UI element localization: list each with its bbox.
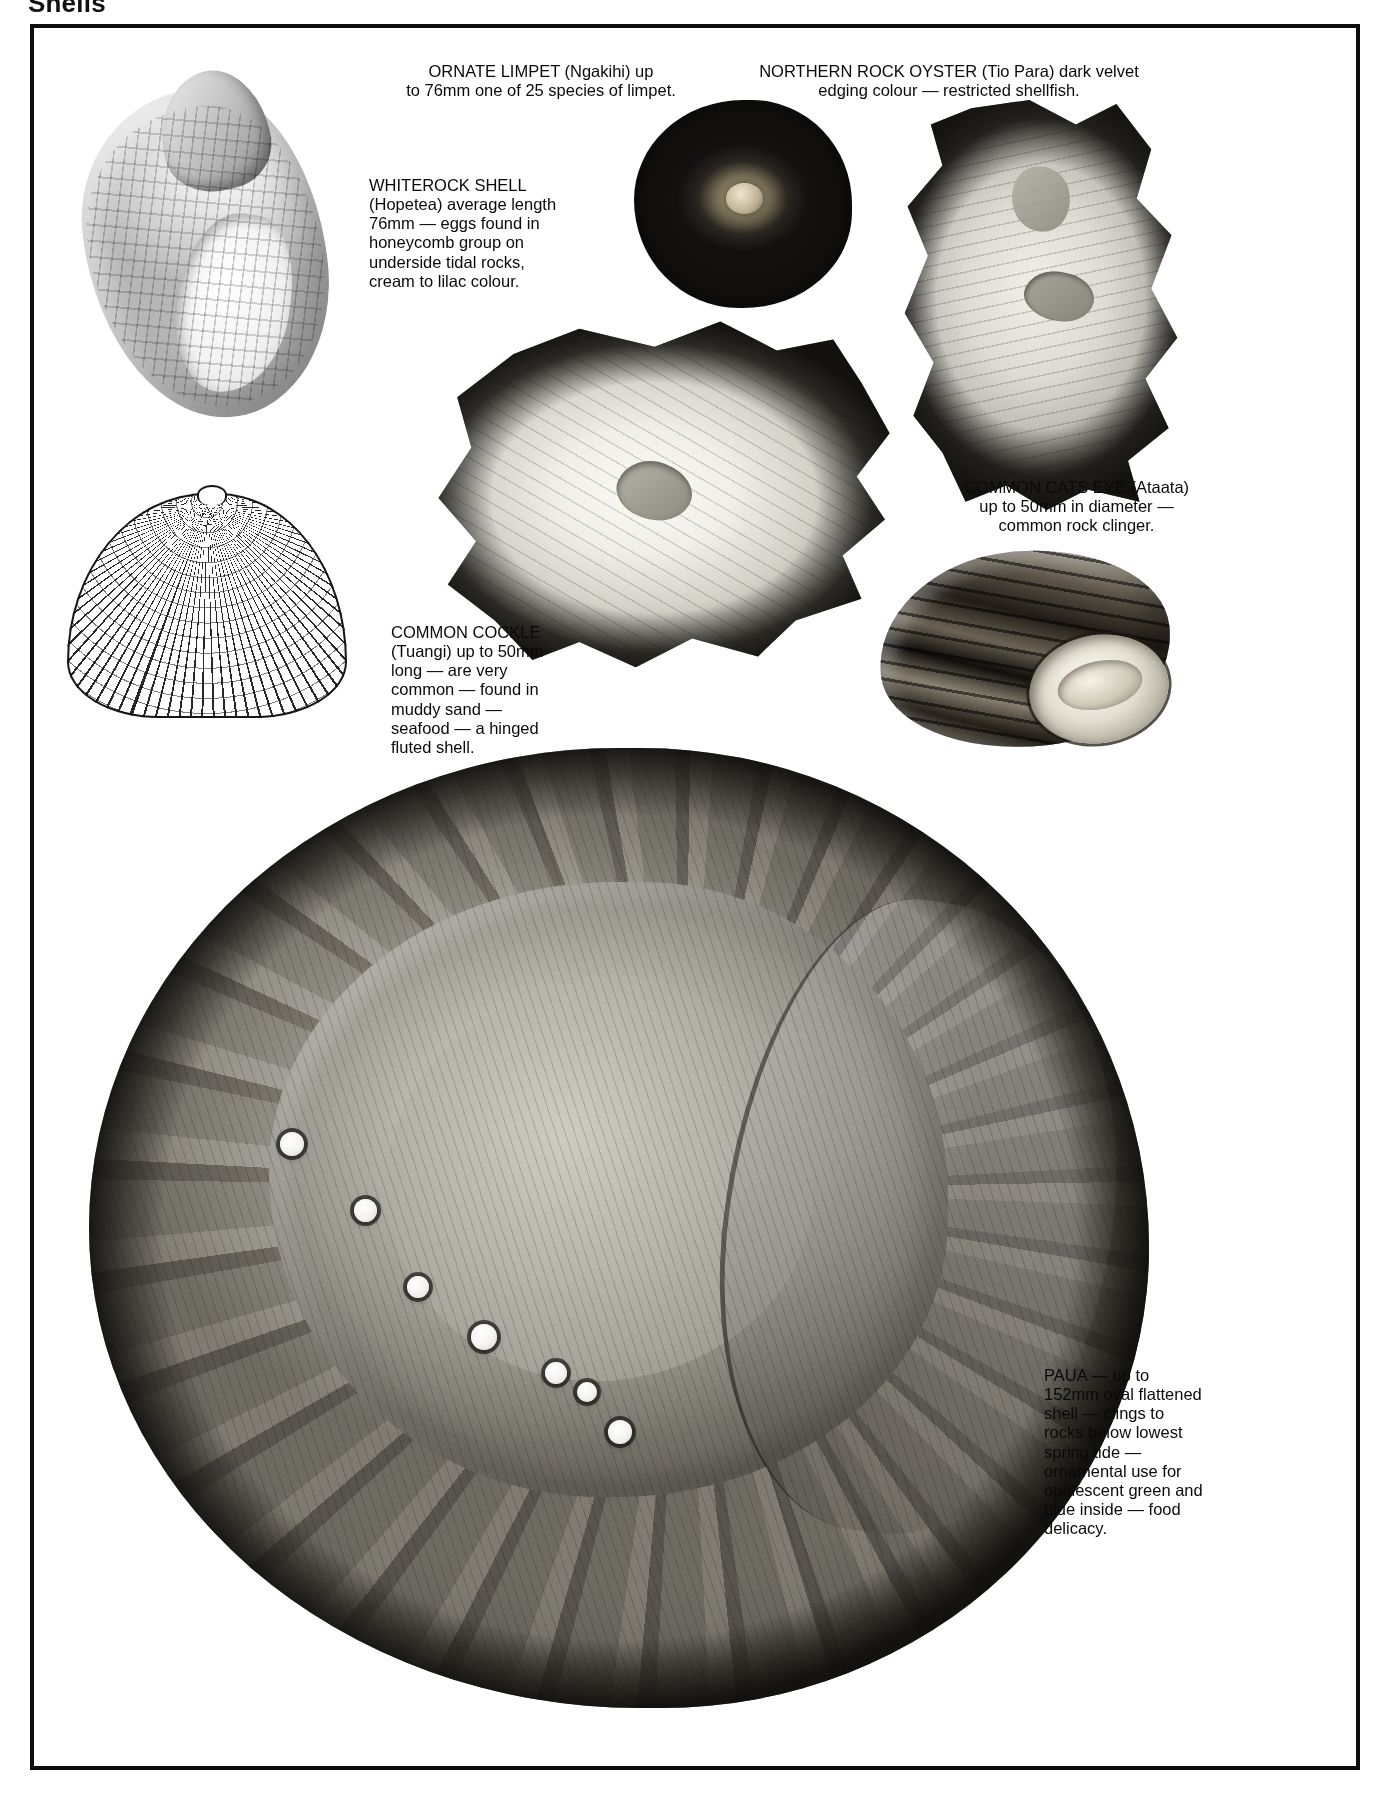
northern-rock-oyster-illustration [896,100,1186,510]
common-cockle-umbo [197,485,227,505]
plate-canvas: ORNATE LIMPET (Ngakihi) up to 76mm one o… [34,28,1356,1766]
rock-oyster-dark-velvet-edge [896,100,1186,510]
common-cockle-illustration [59,483,359,733]
paua-rim-shadow [89,748,1149,1708]
common-cockle-growth-rings [67,493,347,718]
paua-illustration [89,748,1149,1708]
page-title: Shells [28,0,106,14]
common-cats-eye-illustration [879,543,1189,758]
paua-respiratory-hole [577,1382,597,1402]
caption-ornate-limpet: ORNATE LIMPET (Ngakihi) up to 76mm one o… [386,62,696,100]
caption-common-cats-eye: COMMON CATS EYE (Ataata) up to 50mm in d… [939,478,1214,535]
whiterock-shell-illustration [74,63,344,433]
caption-whiterock-shell: WHITEROCK SHELL (Hopetea) average length… [369,176,579,291]
plate-frame: ORNATE LIMPET (Ngakihi) up to 76mm one o… [30,24,1360,1770]
paua-respiratory-hole [471,1324,497,1350]
caption-paua: PAUA — up to 152mm oval flattened shell … [1044,1366,1234,1538]
paua-respiratory-hole [280,1132,304,1156]
ornate-limpet-apex [726,183,763,214]
caption-northern-rock-oyster: NORTHERN ROCK OYSTER (Tio Para) dark vel… [734,62,1164,100]
ornate-limpet-illustration [634,100,852,308]
caption-common-cockle: COMMON COCKLE (Tuangi) up to 50mm long —… [391,623,581,757]
paua-respiratory-hole [407,1276,429,1298]
